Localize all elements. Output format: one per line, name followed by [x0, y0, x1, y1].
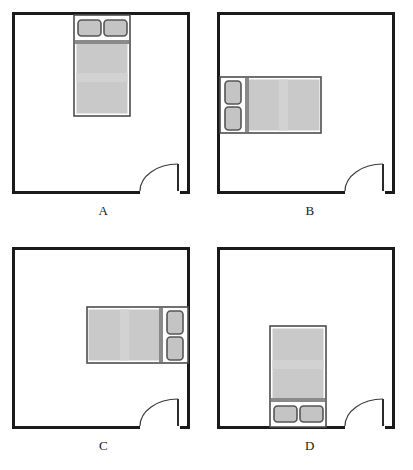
pillow-b-2	[225, 107, 241, 130]
floor-plan-panel-d: D	[207, 235, 413, 470]
floor-plan-d-drawing	[207, 235, 413, 438]
floor-plan-panel-a: A	[0, 0, 207, 235]
pillow-c-2	[167, 337, 183, 360]
bed-a	[74, 15, 130, 116]
floor-plan-panel-c: C	[0, 235, 207, 470]
pillow-a-1	[78, 20, 101, 36]
pillow-d-1	[274, 406, 297, 422]
floor-plan-panel-b: B	[207, 0, 413, 235]
floor-plan-grid: A	[0, 0, 413, 470]
headboard-band-c	[159, 308, 163, 362]
pillow-b-1	[225, 81, 241, 104]
pillow-a-2	[104, 20, 127, 36]
floor-plan-a-drawing	[0, 0, 207, 203]
sheet-band-a	[77, 73, 128, 82]
bed-c	[87, 307, 188, 363]
panel-label-a: A	[0, 203, 207, 218]
panel-label-d: D	[207, 438, 413, 453]
bed-d	[270, 326, 326, 427]
sheet-band-c	[120, 310, 129, 361]
panel-label-c: C	[0, 438, 207, 453]
pillow-d-2	[300, 406, 323, 422]
floor-plan-c-drawing	[0, 235, 207, 438]
headboard-band-a	[75, 40, 129, 44]
sheet-band-b	[279, 80, 288, 131]
floor-plan-b-drawing	[207, 0, 413, 203]
sheet-band-d	[273, 360, 324, 369]
pillow-c-1	[167, 311, 183, 334]
panel-label-b: B	[207, 203, 413, 218]
headboard-band-d	[271, 398, 325, 402]
bed-b	[220, 77, 321, 133]
headboard-band-b	[245, 78, 249, 132]
